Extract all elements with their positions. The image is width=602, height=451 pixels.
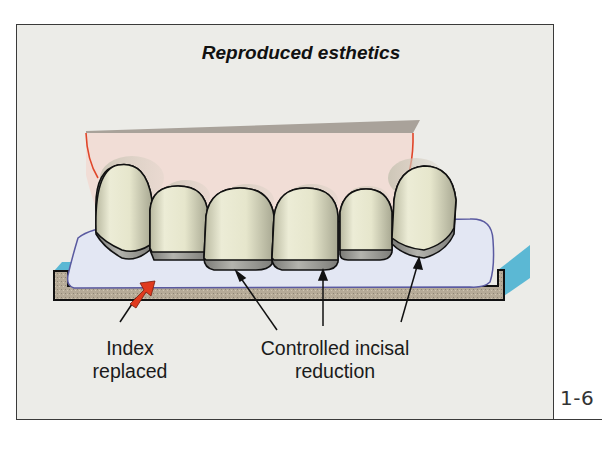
- label-reduction-line2: reduction: [225, 360, 445, 383]
- label-controlled-incisal-reduction: Controlled incisal reduction: [225, 337, 445, 383]
- tooth-lateral-left: [150, 186, 208, 260]
- dental-diagram: [0, 0, 602, 451]
- label-index-line2: replaced: [60, 360, 200, 383]
- label-index-line1: Index: [60, 337, 200, 360]
- tooth-central-right: [272, 188, 338, 270]
- tooth-canine-left: [96, 164, 152, 259]
- label-reduction-line1: Controlled incisal: [225, 337, 445, 360]
- figure-title: Reproduced esthetics: [0, 42, 602, 64]
- tooth-central-left: [204, 188, 274, 270]
- tooth-lateral-right: [340, 189, 392, 260]
- label-index-replaced: Index replaced: [60, 337, 200, 383]
- tooth-canine-right: [392, 166, 456, 258]
- figure-number: 1-6: [560, 386, 594, 410]
